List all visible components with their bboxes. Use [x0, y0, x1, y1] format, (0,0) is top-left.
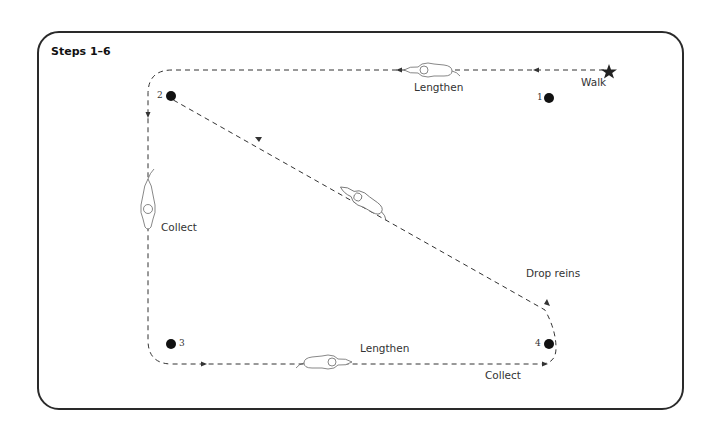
label-drop-reins: Drop reins [526, 267, 580, 279]
arrowhead-icon [544, 299, 550, 306]
horse-figure-icon [141, 63, 460, 369]
marker-4-label: 4 [535, 338, 541, 348]
arrowhead-icon [201, 362, 207, 367]
marker-1-label: 1 [537, 92, 543, 102]
marker-2-label: 2 [157, 90, 163, 100]
arrowhead-icon [255, 137, 262, 142]
arrowhead-icon [396, 68, 402, 73]
marker-4-dot [544, 339, 554, 349]
label-walk: Walk [581, 76, 606, 88]
route-diagram [0, 0, 720, 439]
label-collect-bottom: Collect [485, 369, 521, 381]
label-collect-left: Collect [161, 221, 197, 233]
label-lengthen-top: Lengthen [414, 81, 463, 93]
marker-3-dot [166, 339, 176, 349]
markers [166, 91, 554, 349]
arrowhead-icon [146, 112, 151, 118]
arrowhead-icon [533, 68, 539, 73]
marker-1-dot [544, 93, 554, 103]
arrowhead-icon [542, 362, 548, 367]
marker-3-label: 3 [179, 338, 185, 348]
marker-2-dot [166, 91, 176, 101]
route-path [148, 70, 604, 364]
direction-arrows [146, 68, 551, 367]
label-lengthen-bottom: Lengthen [360, 342, 409, 354]
